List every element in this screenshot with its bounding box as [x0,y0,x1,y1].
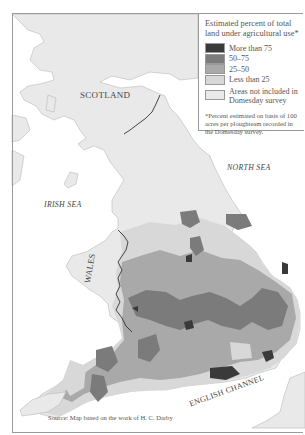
legend-label: 25–50 [229,65,249,74]
legend-item-less-than-25: Less than 25 [205,75,304,86]
legend-footnote: *Percent estimated on basis of 100 acres… [205,112,304,136]
legend-swatch [205,64,225,74]
legend-label: Areas not included in Domesday survey [229,87,299,105]
legend-title: Estimated percent of total land under ag… [205,19,304,39]
legend-item-25-50: 25–50 [205,64,304,75]
legend-item-more-than-75: More than 75 [205,43,304,54]
legend-item-50-75: 50–75 [205,54,304,65]
label-irish-sea: IRISH SEA [44,200,82,209]
legend-swatch [205,54,225,64]
legend-item-not-included: Areas not included in Domesday survey [205,87,304,107]
legend-swatch [205,43,225,53]
legend-label: 50–75 [229,54,249,63]
legend-label: More than 75 [229,44,272,53]
label-scotland: SCOTLAND [80,90,130,100]
legend-swatch [205,90,225,100]
legend-swatch [205,75,225,85]
legend-label: Less than 25 [229,75,269,84]
source-caption: Source: Map based on the work of H. C. D… [48,414,173,421]
label-north-sea: NORTH SEA [227,163,271,172]
map-legend: Estimated percent of total land under ag… [198,14,304,131]
